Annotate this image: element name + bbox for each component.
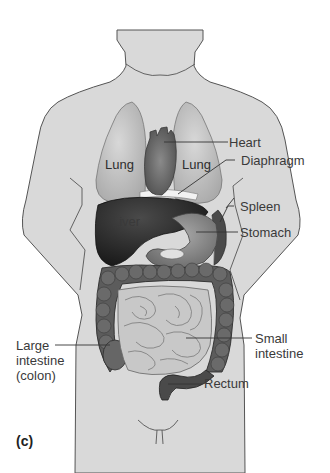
large-intestine-line-2: intestine xyxy=(16,353,64,368)
stomach-label: Stomach xyxy=(240,225,291,240)
small-intestine-label: Small intestine xyxy=(255,331,303,361)
heart-label: Heart xyxy=(229,135,261,150)
diaphragm-label: Diaphragm xyxy=(241,153,305,168)
small-intestine-line-2: intestine xyxy=(255,346,303,361)
large-intestine-line-3: (colon) xyxy=(16,368,64,383)
left-lung-label: Lung xyxy=(105,157,134,172)
large-intestine-line-1: Large xyxy=(16,338,64,353)
digestive-anatomy-figure: Lung Lung Liver Heart Diaphragm Spleen S… xyxy=(0,0,330,473)
large-intestine-label: Large intestine (colon) xyxy=(16,338,64,383)
right-lung-label: Lung xyxy=(182,157,211,172)
panel-label: (c) xyxy=(16,433,33,449)
rectum-label: Rectum xyxy=(204,376,249,391)
spleen-label: Spleen xyxy=(240,199,280,214)
liver-label: Liver xyxy=(112,214,140,229)
small-intestine-line-1: Small xyxy=(255,331,303,346)
